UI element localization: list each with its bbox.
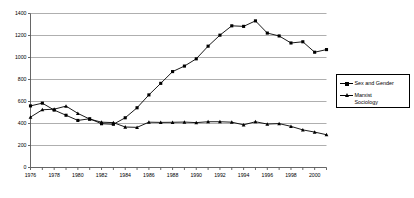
legend-point: [345, 93, 349, 97]
data-point: [313, 51, 316, 54]
data-point: [195, 57, 198, 60]
x-axis-tick-label: 1998: [279, 173, 303, 178]
series-line-0: [31, 21, 327, 124]
series-line-1: [31, 106, 327, 135]
y-axis-tick-label: 800: [18, 77, 27, 82]
legend-label: Marxist Sociology: [353, 92, 378, 105]
legend-entry-0[interactable]: Sex and Gender: [340, 80, 394, 87]
y-axis-tick-label: 0: [24, 165, 27, 170]
data-point: [41, 102, 44, 105]
chart-container: 0200400600800100012001400197619781980198…: [0, 0, 414, 198]
x-axis-tick-label: 1996: [255, 173, 279, 178]
y-axis-tick-label: 200: [18, 143, 27, 148]
data-point: [301, 40, 304, 43]
data-point: [254, 19, 257, 22]
x-axis-tick-label: 1984: [113, 173, 137, 178]
data-point: [64, 114, 67, 117]
x-axis-tick-label: 1992: [208, 173, 232, 178]
x-axis-tick-label: 1976: [19, 173, 43, 178]
data-point: [183, 65, 186, 68]
y-axis-tick-label: 1400: [15, 11, 27, 16]
y-axis-tick-label: 1000: [15, 55, 27, 60]
data-point: [64, 104, 68, 108]
x-axis-tick-label: 1980: [66, 173, 90, 178]
data-point: [218, 34, 221, 37]
y-axis-tick-label: 400: [18, 121, 27, 126]
data-point: [76, 119, 79, 122]
data-point: [289, 41, 292, 44]
data-point: [325, 48, 328, 51]
data-point: [136, 106, 139, 109]
data-point: [29, 115, 33, 119]
data-point: [278, 34, 281, 37]
data-point: [76, 111, 80, 115]
data-point: [159, 82, 162, 85]
legend-label: Sex and Gender: [353, 80, 394, 87]
legend-marker-icon: [340, 93, 353, 99]
data-point: [171, 70, 174, 73]
data-point: [207, 45, 210, 48]
data-point: [230, 24, 233, 27]
legend-point: [345, 82, 349, 86]
y-axis-tick-label: 1200: [15, 33, 27, 38]
x-axis-tick-label: 1982: [90, 173, 114, 178]
legend-marker-icon: [340, 81, 353, 87]
x-axis-tick-label: 1978: [42, 173, 66, 178]
x-axis-tick-label: 1994: [232, 173, 256, 178]
y-axis-tick-label: 600: [18, 99, 27, 104]
data-point: [242, 25, 245, 28]
data-point: [124, 116, 127, 119]
legend-entry-1[interactable]: Marxist Sociology: [340, 92, 378, 105]
x-axis-tick-label: 1986: [137, 173, 161, 178]
data-point: [266, 32, 269, 35]
x-axis-tick-label: 1990: [184, 173, 208, 178]
x-axis-tick-label: 1988: [161, 173, 185, 178]
data-point: [147, 93, 150, 96]
chart-legend: Sex and GenderMarxist Sociology: [336, 74, 410, 108]
x-axis-tick-label: 2000: [303, 173, 327, 178]
data-point: [29, 104, 32, 107]
